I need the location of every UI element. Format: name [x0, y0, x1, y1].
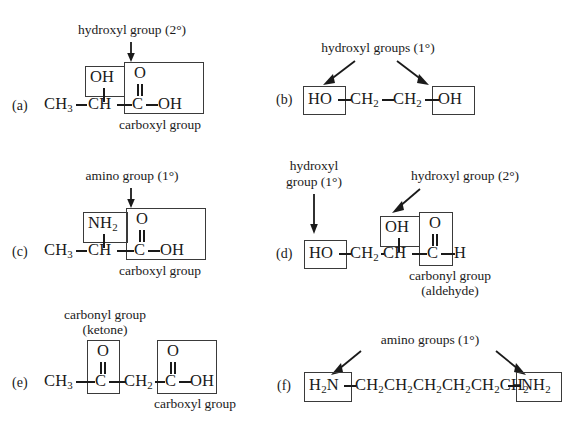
structure-index-f: (f)	[277, 378, 291, 394]
atom-b-ch2-2: CH2	[393, 90, 422, 109]
atom-f-chain: CH2CH2CH2CH2CH2CH2	[355, 376, 529, 395]
atom-e-carbon-1: C	[95, 372, 106, 390]
callout-label-a-hydroxyl: hydroxyl group (2°)	[42, 22, 222, 37]
arrow-down-long-d	[307, 194, 321, 234]
atom-d-ho: HO	[309, 244, 333, 262]
arrow-down-c	[124, 188, 138, 208]
bond-c-3	[148, 250, 160, 252]
atom-c-carbon: C	[134, 241, 145, 259]
structure-index-c: (c)	[12, 244, 28, 260]
callout-label-d-hydroxyl-1-line1: hydroxyl	[266, 158, 362, 173]
atom-b-ch2-1: CH2	[350, 90, 379, 109]
bond-c-2	[117, 250, 134, 252]
callout-label-d-hydroxyl-1-line2: group (1°)	[266, 174, 362, 189]
bond-a-2	[117, 104, 132, 106]
bond-e-1	[76, 381, 95, 383]
structure-index-a: (a)	[12, 98, 28, 114]
arrow-diagonal-left-b	[322, 60, 356, 86]
atom-d-hydrogen: H	[454, 244, 466, 262]
atom-d-ch: CH	[383, 244, 406, 262]
bond-a-3	[146, 104, 158, 106]
atom-e-carbon-2: C	[165, 372, 176, 390]
structure-index-d: (d)	[276, 246, 292, 262]
atom-a-ch3: CH3	[44, 95, 73, 114]
atom-a-oxygen: O	[134, 64, 146, 82]
bond-b-3	[425, 99, 439, 101]
atom-e-ch3: CH3	[44, 372, 73, 391]
atom-f-h2n: H2N	[309, 376, 339, 395]
atom-a-hydroxyl: OH	[90, 68, 114, 86]
atom-d-oxygen: O	[429, 214, 441, 232]
bond-f-right	[508, 385, 521, 387]
atom-a-ch: CH	[88, 95, 111, 113]
atom-d-hydroxyl-top: OH	[385, 218, 409, 236]
callout-label-d-hydroxyl-2: hydroxyl group (2°)	[370, 168, 560, 183]
bond-e-3	[155, 381, 165, 383]
arrow-diagonal-left-d	[391, 188, 421, 214]
callout-label-c-amino: amino group (1°)	[42, 168, 222, 183]
atom-c-hydroxyl-right: OH	[160, 241, 184, 259]
atom-b-ho: HO	[308, 90, 332, 108]
atom-c-oxygen: O	[136, 210, 148, 228]
atom-a-hydroxyl-right: OH	[158, 95, 182, 113]
atom-e-oxygen-2: O	[167, 342, 179, 360]
bond-a-1	[76, 104, 87, 106]
atom-c-ch3: CH3	[44, 241, 73, 260]
caption-a-carboxyl: carboxyl group	[85, 117, 235, 132]
caption-d-carbonyl: carbonyl group	[370, 268, 530, 283]
atom-c-ch: CH	[88, 241, 111, 259]
atom-c-amino: NH2	[88, 214, 118, 233]
atom-f-nh2: NH2	[521, 376, 551, 395]
bond-c-1	[76, 250, 87, 252]
callout-label-f-amino: amino groups (1°)	[355, 332, 505, 347]
caption-e-carboxyl: carboxyl group	[120, 396, 270, 411]
atom-e-oxygen-1: O	[97, 342, 109, 360]
atom-e-ch2: CH2	[124, 372, 153, 391]
atom-b-oh: OH	[438, 90, 462, 108]
atom-a-carbon: C	[132, 95, 143, 113]
functional-groups-figure: hydroxyl group (2°) OH O (a) CH3 CH C OH…	[0, 0, 576, 434]
atom-d-ch2: CH2	[350, 244, 379, 263]
callout-label-e-carbonyl: carbonyl group	[25, 307, 185, 322]
bond-d-4	[441, 253, 455, 255]
callout-label-e-ketone: (ketone)	[25, 322, 185, 337]
atom-e-hydroxyl: OH	[190, 372, 214, 390]
arrow-diagonal-right-b	[396, 60, 430, 86]
atom-d-carbon: C	[427, 244, 438, 262]
caption-d-aldehyde: (aldehyde)	[370, 283, 530, 298]
caption-c-carboxyl: carboxyl group	[85, 263, 235, 278]
structure-index-b: (b)	[276, 92, 292, 108]
callout-label-b-hydroxyl: hydroxyl groups (1°)	[288, 40, 468, 55]
arrow-down-a	[124, 42, 138, 62]
structure-index-e: (e)	[12, 375, 28, 391]
bond-d-3	[412, 253, 427, 255]
